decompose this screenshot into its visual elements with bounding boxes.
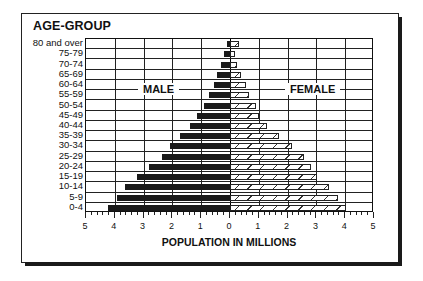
x-tick-label: 3 [309,221,321,231]
x-tick-mark [350,212,351,215]
x-axis-ticks [85,212,373,218]
x-tick-mark [241,212,242,215]
male-label: MALE [138,83,179,95]
x-tick-mark [264,212,265,215]
x-tick-mark [217,212,218,215]
x-tick-mark [258,212,259,218]
x-tick-mark [315,212,316,218]
x-tick-mark [235,212,236,215]
x-tick-mark [275,212,276,215]
female-label: FEMALE [285,83,340,95]
x-tick-mark [160,212,161,215]
x-tick-label: 5 [79,221,91,231]
x-axis-label: POPULATION IN MILLIONS [85,236,373,248]
x-tick-mark [344,212,345,218]
x-tick-mark [361,212,362,215]
x-tick-mark [269,212,270,215]
x-tick-mark [97,212,98,215]
x-tick-mark [223,212,224,215]
x-tick-mark [373,212,374,218]
row-gridline [86,39,372,203]
x-tick-label: 5 [367,221,379,231]
female-bar [230,205,346,211]
x-tick-mark [120,212,121,215]
x-tick-mark [108,212,109,215]
x-tick-mark [183,212,184,215]
x-tick-mark [91,212,92,215]
x-tick-mark [327,212,328,215]
x-tick-mark [137,212,138,215]
x-tick-mark [356,212,357,215]
x-tick-mark [148,212,149,215]
x-tick-label: 1 [252,221,264,231]
x-tick-mark [143,212,144,218]
x-tick-label: 3 [137,221,149,231]
x-tick-mark [125,212,126,215]
x-tick-mark [333,212,334,215]
x-tick-label: 4 [108,221,120,231]
x-tick-mark [85,212,86,218]
x-tick-mark [338,212,339,215]
plot-area: MALEFEMALE [85,38,373,212]
chart-title: AGE-GROUP [33,19,111,33]
x-tick-label: 4 [338,221,350,231]
x-tick-mark [166,212,167,215]
x-tick-mark [171,212,172,218]
x-tick-mark [189,212,190,215]
x-tick-label: 0 [223,221,235,231]
x-tick-mark [200,212,201,218]
male-bar [117,195,230,201]
x-tick-mark [177,212,178,215]
x-tick-mark [304,212,305,215]
x-tick-mark [229,212,230,218]
x-tick-label: 1 [194,221,206,231]
x-tick-mark [252,212,253,215]
x-tick-mark [154,212,155,215]
x-tick-mark [212,212,213,215]
x-tick-mark [367,212,368,215]
male-bar [108,205,230,211]
x-tick-mark [287,212,288,218]
frame-shadow-right [398,17,402,266]
x-tick-mark [102,212,103,215]
x-tick-mark [310,212,311,215]
x-tick-mark [281,212,282,215]
x-tick-mark [246,212,247,215]
female-bar [230,195,338,201]
x-tick-mark [194,212,195,215]
x-tick-mark [131,212,132,215]
x-tick-mark [321,212,322,215]
x-tick-mark [292,212,293,215]
age-group-label: 0-4 [69,201,83,212]
x-tick-label: 2 [281,221,293,231]
x-tick-label: 2 [165,221,177,231]
x-tick-mark [114,212,115,218]
x-tick-mark [298,212,299,215]
x-tick-mark [206,212,207,215]
frame-shadow-bottom [25,262,402,266]
